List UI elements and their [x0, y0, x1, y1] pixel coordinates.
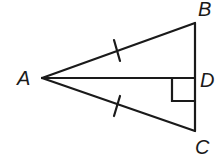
label-c: C	[195, 136, 210, 158]
right-angle-marker	[172, 78, 195, 101]
label-d: D	[200, 69, 214, 91]
label-b: B	[198, 0, 211, 20]
congruence-tick-ac	[114, 96, 120, 116]
label-a: A	[16, 67, 30, 89]
segment-ab	[42, 23, 195, 78]
triangle-diagram: A B D C	[0, 0, 218, 165]
